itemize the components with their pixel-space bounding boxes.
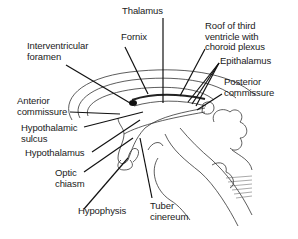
label-hypothalamic-sulcus: Hypothalamic sulcus xyxy=(21,123,77,144)
third-ventricle-outline xyxy=(118,108,205,164)
cerebellum-outline xyxy=(213,110,247,150)
label-hypophysis: Hypophysis xyxy=(78,206,126,217)
label-interventricular-foramen: Interventricular foramen xyxy=(27,41,88,62)
label-tuber-cinereum: Tuber cinereum xyxy=(150,201,188,222)
label-fornix: Fornix xyxy=(121,32,147,43)
label-thalamus: Thalamus xyxy=(122,6,163,17)
label-roof-third-ventricle: Roof of third ventricle with choroid ple… xyxy=(205,21,265,53)
label-posterior-commissure: Posterior commissure xyxy=(224,77,274,98)
label-optic-chiasm: Optic chiasm xyxy=(55,168,85,189)
label-hypothalamus: Hypothalamus xyxy=(25,148,85,159)
label-epithalamus: Epithalamus xyxy=(220,56,271,67)
fornix-band xyxy=(132,95,205,100)
label-anterior-commissure: Anterior commissure xyxy=(17,96,67,117)
foramen-spot xyxy=(129,100,137,106)
